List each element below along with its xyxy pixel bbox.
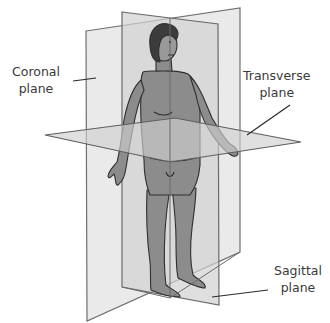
coronal-plane-label: Coronal plane <box>12 63 60 97</box>
transverse-label-line2: plane <box>243 84 310 101</box>
sagittal-leader-line <box>212 290 268 297</box>
sagittal-label-line1: Sagittal <box>274 262 322 279</box>
coronal-label-line2: plane <box>12 80 60 97</box>
transverse-leader-line <box>247 105 290 135</box>
transverse-plane-label: Transverse plane <box>243 67 310 101</box>
sagittal-label-line2: plane <box>274 279 322 296</box>
coronal-label-line1: Coronal <box>12 63 60 80</box>
sagittal-plane-label: Sagittal plane <box>274 262 322 296</box>
transverse-label-line1: Transverse <box>243 67 310 84</box>
